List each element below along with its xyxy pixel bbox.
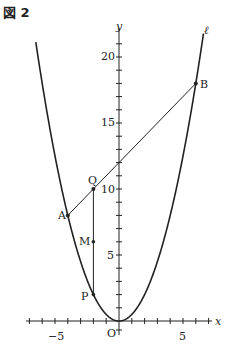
- point-q: [91, 187, 95, 191]
- coordinate-diagram: x y O −5 5 5 10 15 20 ℓ A B Q M P: [0, 0, 232, 355]
- point-a: [66, 213, 70, 217]
- y-axis-label: y: [115, 20, 123, 33]
- point-m: [92, 240, 96, 244]
- y-axis: [116, 28, 122, 335]
- x-axis-label: x: [215, 315, 222, 328]
- y-tick-label-5: 5: [107, 249, 114, 262]
- point-a-label: A: [57, 209, 67, 222]
- x-tick-label-neg5: −5: [48, 330, 64, 343]
- point-p: [92, 293, 96, 297]
- x-tick-label-5: 5: [179, 330, 186, 343]
- point-m-label: M: [79, 235, 90, 248]
- y-tick-label-20: 20: [101, 50, 115, 63]
- curve-label: ℓ: [204, 24, 209, 37]
- point-p-label: P: [81, 290, 89, 303]
- origin-label: O: [107, 327, 116, 340]
- y-tick-label-15: 15: [101, 116, 115, 129]
- point-b-label: B: [200, 78, 208, 91]
- line-ab: [68, 83, 196, 215]
- parabola-curve: [36, 34, 204, 322]
- point-q-label: Q: [88, 174, 97, 187]
- y-tick-label-10: 10: [101, 183, 115, 196]
- point-b: [194, 81, 198, 85]
